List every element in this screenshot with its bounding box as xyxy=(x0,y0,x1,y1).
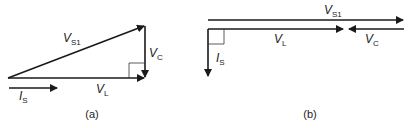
label-is-b: IS xyxy=(216,51,225,67)
label-vl-b: VL xyxy=(274,32,287,48)
label-vs1-b: VS1 xyxy=(324,3,342,19)
right-angle-marker-b xyxy=(208,29,224,44)
right-angle-marker-a xyxy=(129,63,145,78)
vector-vs1-a xyxy=(8,26,144,78)
phasor-diagrams: VS1 VC VL IS (a) VS1 VL VC IS (b) xyxy=(0,0,410,128)
label-vc-a: VC xyxy=(149,46,163,62)
panel-a: VS1 VC VL IS (a) xyxy=(8,26,163,120)
label-vc-b: VC xyxy=(365,32,379,48)
panel-b: VS1 VL VC IS (b) xyxy=(208,3,404,120)
label-is-a: IS xyxy=(19,89,28,105)
caption-a: (a) xyxy=(85,108,98,120)
label-vl-a: VL xyxy=(96,82,109,98)
caption-b: (b) xyxy=(303,108,316,120)
label-vs1-a: VS1 xyxy=(63,31,81,47)
